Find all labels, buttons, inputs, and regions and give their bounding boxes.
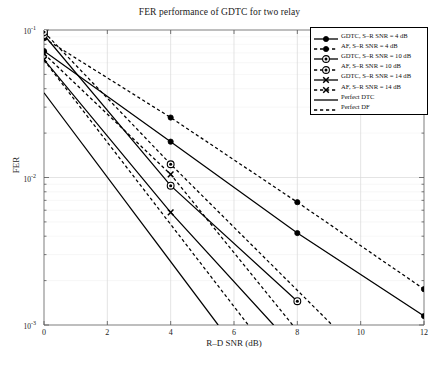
y-tick-label: 10-1 — [14, 25, 36, 36]
chart-legend: GDTC, S–R SNR = 4 dBAF, S–R SNR = 4 dBGD… — [310, 27, 428, 115]
legend-swatch — [313, 50, 339, 60]
legend-item: AF, S–R SNR = 4 dB — [313, 40, 425, 50]
legend-item: AF, S–R SNR = 14 dB — [313, 81, 425, 91]
legend-swatch — [313, 81, 339, 91]
legend-item: Perfect DF — [313, 101, 425, 111]
y-tick-label: 10-3 — [14, 320, 36, 331]
y-tick-label: 10-2 — [14, 173, 36, 184]
legend-item: AF, S–R SNR = 10 dB — [313, 61, 425, 71]
legend-label: GDTC, S–R SNR = 4 dB — [339, 32, 408, 39]
legend-label: GDTC, S–R SNR = 10 dB — [339, 52, 411, 59]
legend-item: GDTC, S–R SNR = 14 dB — [313, 71, 425, 81]
legend-label: GDTC, S–R SNR = 14 dB — [339, 72, 411, 79]
legend-swatch — [313, 91, 339, 101]
x-tick-label: 8 — [287, 328, 307, 337]
legend-swatch — [313, 40, 339, 50]
chart-figure: FER performance of GDTC for two relay FE… — [0, 0, 439, 365]
legend-swatch — [313, 30, 339, 40]
y-axis-label: FER — [11, 135, 21, 195]
x-tick-label: 6 — [224, 328, 244, 337]
x-tick-label: 4 — [161, 328, 181, 337]
legend-swatch — [313, 61, 339, 71]
legend-label: AF, S–R SNR = 10 dB — [339, 62, 401, 69]
legend-item: GDTC, S–R SNR = 10 dB — [313, 50, 425, 60]
legend-label: Perfect DTC — [339, 93, 375, 100]
legend-swatch — [313, 71, 339, 81]
x-axis-label: R–D SNR (dB) — [44, 338, 424, 348]
legend-label: Perfect DF — [339, 103, 370, 110]
legend-swatch — [313, 101, 339, 111]
legend-label: AF, S–R SNR = 14 dB — [339, 83, 401, 90]
x-tick-label: 10 — [351, 328, 371, 337]
legend-item: Perfect DTC — [313, 91, 425, 101]
x-tick-label: 0 — [34, 328, 54, 337]
legend-item: GDTC, S–R SNR = 4 dB — [313, 30, 425, 40]
x-tick-label: 12 — [414, 328, 434, 337]
legend-label: AF, S–R SNR = 4 dB — [339, 42, 398, 49]
x-tick-label: 2 — [97, 328, 117, 337]
